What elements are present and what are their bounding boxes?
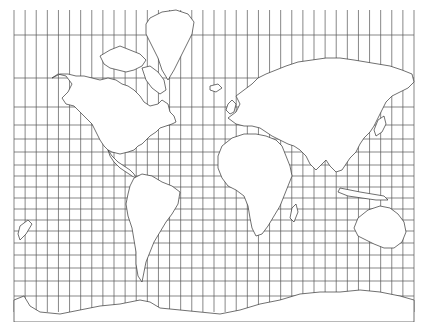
landmass-australia [354,206,406,248]
landmass-central-america [108,150,136,178]
world-map [0,0,425,322]
graticule [14,10,414,312]
landmass-south-america [126,174,180,282]
landmass-arctic-archipelago [100,46,146,72]
landmass-madagascar [290,204,298,222]
landmass-british-isles [226,100,236,114]
landmass-iceland [210,84,222,92]
